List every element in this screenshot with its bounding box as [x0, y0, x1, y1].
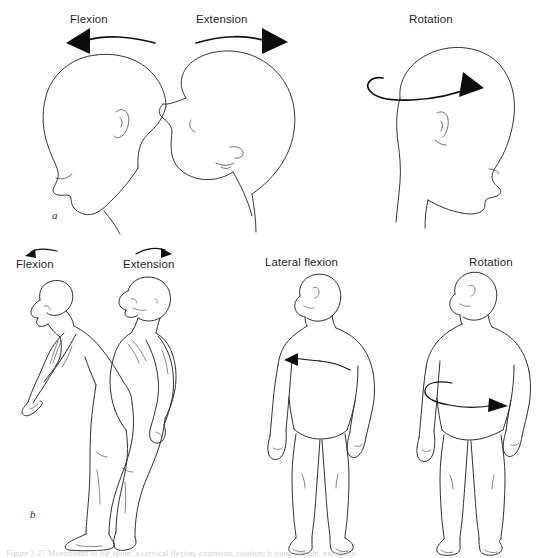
label-panel-a-extension: Extension: [196, 13, 247, 25]
figure-line-art: [0, 0, 553, 558]
extension-arrow-body-panel: [136, 248, 172, 258]
rotation-arrow-head-panel: [368, 72, 484, 100]
body-rotation-outline: [417, 272, 531, 555]
anatomy-figure: Flexion Extension Rotation a Flexion Ext…: [0, 0, 553, 558]
head-extension-outline: [159, 51, 295, 232]
head-rotation-outline: [396, 47, 514, 228]
panel-id-b: b: [30, 508, 36, 520]
head-flexion-outline: [43, 54, 166, 234]
label-panel-a-flexion: Flexion: [70, 13, 108, 25]
body-lateral-flexion-outline: [268, 274, 375, 554]
figure-caption: Figure 3.27 Movements of the spine: a ce…: [6, 548, 551, 558]
label-panel-b-flexion: Flexion: [16, 258, 54, 270]
panel-a-artwork: [43, 28, 514, 234]
flexion-arrow-head-panel: [66, 28, 155, 54]
panel-b-artwork: [22, 248, 531, 555]
label-panel-b-lateral-flexion: Lateral flexion: [265, 256, 338, 268]
label-panel-b-extension: Extension: [123, 258, 174, 270]
body-extension-outline: [110, 277, 176, 443]
body-flexion-outline: [22, 280, 132, 415]
flexion-arrow-body-panel: [25, 249, 57, 258]
panel-id-a: a: [52, 209, 58, 221]
label-panel-b-rotation: Rotation: [469, 256, 513, 268]
extension-arrow-head-panel: [196, 28, 288, 54]
label-panel-a-rotation: Rotation: [409, 13, 453, 25]
